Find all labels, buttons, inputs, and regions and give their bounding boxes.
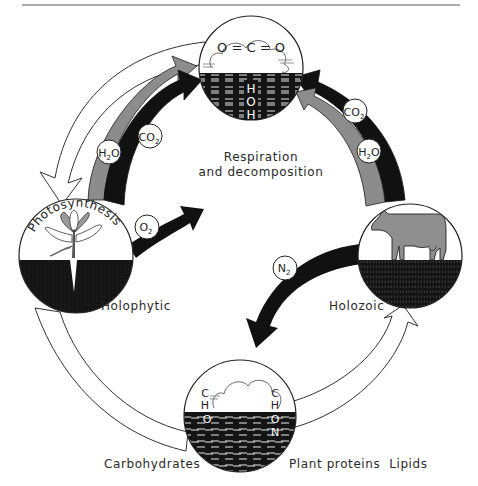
respiration-label: Respiration and decomposition	[196, 150, 326, 180]
holophytic-label: Holophytic	[101, 299, 171, 313]
atmosphere-water-circle: O = C = O H O H	[195, 16, 310, 123]
carbon-cycle-diagram: O = C = O H O H Photosynthe	[0, 0, 478, 486]
proteins-lipids-label: Plant proteins Lipids	[289, 457, 428, 471]
respiration-line1: Respiration	[196, 150, 326, 165]
cho-h: H	[201, 399, 209, 412]
respiration-line2: and decomposition	[196, 165, 326, 180]
water-h1: H	[246, 82, 255, 96]
badge-co2-left: CO2	[138, 124, 162, 148]
chon-n: N	[271, 426, 279, 439]
badge-h2o-left: H2O	[97, 140, 121, 164]
chon-h: H	[271, 399, 279, 412]
badge-o2: O2	[135, 215, 159, 239]
badge-co2-right: CO2	[343, 99, 367, 123]
chon-o: O	[271, 413, 280, 426]
badge-h2o-right: H2O	[357, 139, 381, 163]
carbohydrates-label: Carbohydrates	[104, 457, 200, 471]
nitrogen-arrow	[246, 244, 362, 348]
white-band-left-to-bottom	[35, 308, 188, 451]
water-h2: H	[246, 108, 255, 122]
badge-n2: N2	[273, 256, 297, 280]
co2-formula: O = C = O	[217, 40, 285, 55]
cho-o: O	[203, 413, 212, 426]
white-arrow-bottom-to-right	[292, 305, 418, 428]
water-o: O	[246, 95, 255, 109]
holozoic-label: Holozoic	[329, 299, 384, 313]
